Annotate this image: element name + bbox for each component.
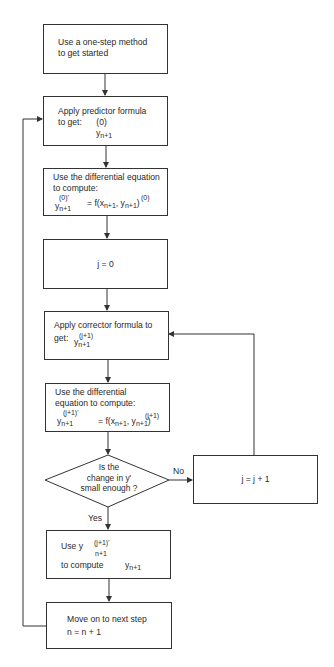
flowchart: Use a one-step method to get started App…	[0, 0, 334, 667]
de-predict-rhs-prefix: = f(x	[87, 198, 104, 208]
de-predict-rhs-sup: (0)	[141, 192, 150, 203]
increment-j-box: j = j + 1	[193, 455, 318, 504]
corrector-get-label: get:	[54, 333, 68, 344]
corrector-equation: get: (j+1) yn+1	[54, 331, 164, 351]
predictor-superscript: (0)	[96, 117, 107, 127]
de-predict-rhs-mid: , y	[116, 198, 125, 208]
de-correct-rhs-mid: , y	[127, 416, 136, 426]
de-correct-rhs-close: )	[148, 416, 151, 426]
predictor-sub: n+1	[100, 132, 112, 139]
de-predict-rhs-x-sub: n+1	[104, 202, 116, 209]
corrector-text-line1: Apply corrector formula to	[54, 320, 164, 331]
de-correct-lhs-sub: n+1	[61, 420, 73, 427]
de-predict-text-line1: Use the differential equation	[53, 172, 163, 183]
de-predict-rhs-close: )	[137, 198, 140, 208]
next-step-box: Move on to next step n = n + 1	[46, 602, 172, 649]
de-predict-rhs-y-sub: n+1	[125, 202, 137, 209]
predictor-text-line2: to get: (0)	[58, 117, 159, 128]
predictor-box: Apply predictor formula to get: (0) yn+1	[43, 96, 168, 146]
use-y-content: Use y (j+1)' n+1 to compute yn+1	[61, 535, 166, 575]
de-predict-lhs-sub: n+1	[59, 205, 71, 212]
decision-line1: Is the	[70, 462, 148, 473]
corrector-box: Apply corrector formula to get: (j+1) yn…	[44, 311, 169, 360]
edge-label-no: No	[173, 466, 184, 476]
use-y-line2: to compute	[61, 560, 104, 571]
corrector-variable: yn+1	[74, 337, 90, 348]
use-y-prefix: Use y	[61, 541, 83, 552]
de-correct-box: Use the differential equation to compute…	[45, 383, 170, 432]
use-y-target-sub: n+1	[129, 564, 141, 571]
next-step-text-line2: n = n + 1	[67, 626, 167, 639]
init-j-box: j = 0	[43, 239, 168, 289]
use-y-sup: (j+1)'	[94, 537, 110, 548]
predictor-text-line1: Apply predictor formula	[58, 106, 159, 117]
corrector-sub: n+1	[78, 341, 90, 348]
start-text-line1: Use a one-step method	[58, 37, 159, 48]
de-correct-rhs-y-sub: n+1	[136, 420, 148, 427]
next-step-text-line1: Move on to next step	[67, 613, 167, 626]
de-correct-rhs: = f(xn+1, yn+1)	[98, 416, 151, 427]
de-correct-rhs-prefix: = f(x	[98, 416, 115, 426]
de-predict-rhs: = f(xn+1, yn+1)	[87, 198, 140, 209]
de-predict-lhs: yn+1	[55, 201, 71, 212]
use-y-target: yn+1	[125, 560, 141, 571]
de-correct-equation: (j+1)' yn+1 (j+1) = f(xn+1, yn+1)	[55, 409, 165, 429]
use-y-sub: n+1	[95, 548, 107, 559]
decision-line3: small enough ?	[70, 483, 148, 494]
de-correct-text-line1: Use the differential	[55, 387, 165, 398]
predictor-get-label: to get:	[58, 117, 82, 127]
decision-text: Is the change in y' small enough ?	[70, 462, 148, 494]
use-y-box: Use y (j+1)' n+1 to compute yn+1	[46, 530, 171, 579]
de-correct-rhs-x-sub: n+1	[115, 420, 127, 427]
predictor-variable: yn+1	[58, 128, 159, 139]
increment-j-text: j = j + 1	[241, 474, 269, 485]
init-j-text: j = 0	[97, 259, 113, 270]
start-box: Use a one-step method to get started	[43, 24, 168, 74]
de-predict-box: Use the differential equation to compute…	[43, 168, 168, 216]
de-predict-equation: (0)' yn+1 (0) = f(xn+1, yn+1)	[53, 194, 163, 214]
de-correct-lhs: yn+1	[57, 416, 73, 427]
start-text-line2: to get started	[58, 48, 159, 59]
edge-label-yes: Yes	[88, 513, 102, 523]
decision-line2: change in y'	[70, 473, 148, 484]
